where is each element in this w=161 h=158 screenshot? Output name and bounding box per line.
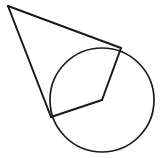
- tangent-line-lower: [8, 6, 51, 117]
- tangent-line-upper: [8, 6, 121, 48]
- radius-line-lower: [51, 100, 102, 117]
- geometry-canvas: [0, 0, 161, 158]
- radius-line-upper: [102, 48, 121, 100]
- geometry-diagram: [0, 0, 161, 158]
